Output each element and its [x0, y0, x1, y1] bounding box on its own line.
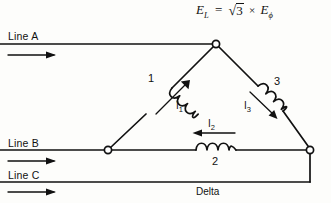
right-arrow-icon-line-b — [8, 158, 56, 165]
node-c-right — [306, 146, 313, 153]
label-line-a: Line A — [8, 31, 38, 42]
label-line-b: Line B — [8, 138, 39, 149]
coil-icon-2 — [196, 143, 236, 150]
delta-leg-3-upper — [219, 47, 258, 86]
delta-leg-3-lower — [283, 111, 308, 146]
node-b-left — [104, 146, 111, 153]
current-arrow-icon-i3 — [250, 92, 278, 119]
right-arrow-icon-line-c — [8, 189, 56, 196]
label-current-i3: I3 — [244, 101, 251, 114]
node-a-top — [212, 40, 219, 47]
label-line-c: Line C — [8, 170, 40, 181]
coil-icon-3 — [258, 81, 288, 111]
right-arrow-icon-line-a — [8, 52, 56, 59]
current-i3-subscript: 3 — [247, 105, 251, 114]
figure-delta-connection: EL = √3 × Eϕ — [0, 0, 331, 203]
label-current-i1: I1 — [176, 101, 183, 114]
current-i2-subscript: 2 — [211, 123, 215, 132]
delta-circuit-drawing — [0, 0, 331, 203]
current-i1-subscript: 1 — [179, 105, 183, 114]
label-winding-2: 2 — [212, 156, 218, 167]
label-winding-3: 3 — [274, 76, 280, 87]
label-winding-1: 1 — [148, 73, 154, 84]
label-delta-caption: Delta — [196, 187, 219, 197]
delta-leg-1-upper — [172, 47, 213, 88]
delta-leg-1-lower — [110, 114, 146, 148]
label-current-i2: I2 — [208, 119, 215, 132]
